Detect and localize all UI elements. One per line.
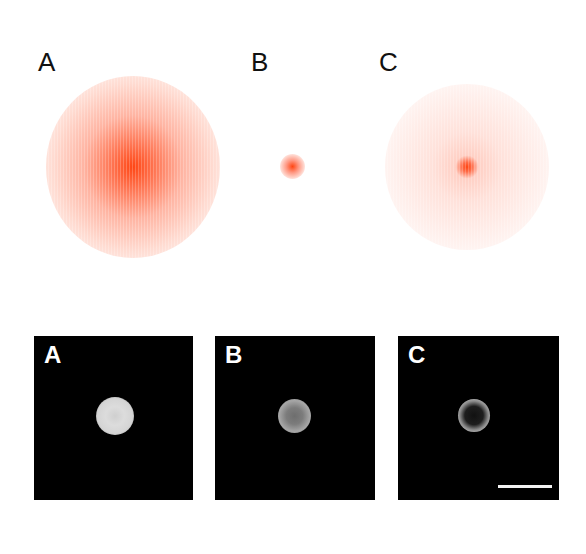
top-label-c: C bbox=[379, 49, 398, 75]
cell-b bbox=[278, 399, 311, 433]
panel-label-b: B bbox=[225, 343, 242, 367]
spot-a-texture bbox=[46, 76, 220, 258]
top-label-a: A bbox=[38, 49, 55, 75]
panel-label-a: A bbox=[44, 343, 61, 367]
figure: A B C A B C bbox=[0, 0, 586, 554]
panel-label-c: C bbox=[408, 343, 425, 367]
cell-c bbox=[458, 399, 490, 432]
spot-c-texture bbox=[385, 84, 549, 250]
spot-b bbox=[280, 154, 305, 179]
scale-bar bbox=[498, 485, 552, 488]
micrograph-panel-c: C bbox=[398, 336, 559, 500]
top-label-b: B bbox=[251, 49, 268, 75]
micrograph-panel-a: A bbox=[34, 336, 193, 500]
micrograph-panel-b: B bbox=[215, 336, 375, 500]
cell-a bbox=[96, 397, 134, 435]
